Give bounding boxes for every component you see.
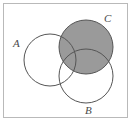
set-label-c: C	[104, 13, 111, 24]
set-label-b: B	[85, 105, 92, 116]
set-label-a: A	[13, 38, 20, 49]
venn-diagram-canvas	[0, 0, 133, 124]
venn-diagram-figure: A C B	[0, 0, 133, 124]
